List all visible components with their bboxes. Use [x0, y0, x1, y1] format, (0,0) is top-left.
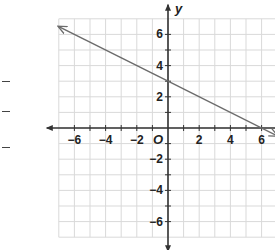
y-tick-label: 4 — [156, 59, 163, 73]
y-tick-label: −2 — [149, 152, 163, 166]
tick-labels: −6−4−2246642−2−4−6Oxy — [68, 1, 275, 229]
origin-label: O — [153, 132, 163, 147]
x-tick-label: −2 — [130, 133, 144, 147]
coordinate-plane: −6−4−2246642−2−4−6Oxy — [0, 0, 275, 250]
y-tick-label: −6 — [149, 215, 163, 229]
y-tick-label: 2 — [156, 90, 163, 104]
x-tick-label: 6 — [258, 133, 265, 147]
x-tick-label: −6 — [68, 133, 82, 147]
x-tick-label: 2 — [196, 133, 203, 147]
y-tick-label: 6 — [156, 27, 163, 41]
y-axis-label: y — [174, 1, 183, 16]
x-tick-label: −4 — [99, 133, 113, 147]
x-tick-label: 4 — [227, 133, 234, 147]
axes — [47, 5, 275, 250]
y-tick-label: −4 — [149, 183, 163, 197]
